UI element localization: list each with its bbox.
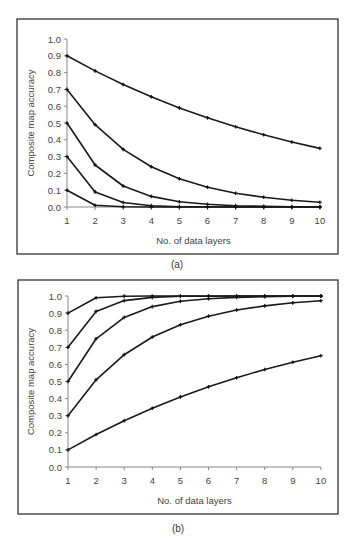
x-tick-label: 2 — [93, 475, 98, 486]
y-tick-label: 0.4 — [49, 393, 62, 404]
x-tick-label: 3 — [121, 215, 126, 226]
caption-b: (b) — [158, 523, 198, 534]
x-tick-label: 8 — [262, 475, 267, 486]
x-tick-label: 5 — [178, 475, 183, 486]
x-axis-label: No. of data layers — [156, 235, 231, 246]
y-tick-label: 0.6 — [49, 359, 62, 370]
y-tick-label: 0.9 — [49, 308, 62, 319]
y-tick-label: 0.9 — [48, 50, 61, 61]
series-line — [67, 89, 320, 202]
series-line — [68, 296, 321, 381]
y-tick-label: 0.2 — [48, 168, 61, 179]
y-tick-label: 0.7 — [49, 342, 62, 353]
x-tick-label: 3 — [122, 475, 127, 486]
figure: 0.00.10.20.30.40.50.60.70.80.91.01234567… — [0, 0, 354, 547]
y-tick-label: 0.4 — [48, 134, 61, 145]
y-tick-label: 0.3 — [49, 410, 62, 421]
x-tick-label: 9 — [290, 475, 295, 486]
x-tick-label: 1 — [65, 475, 70, 486]
series-line — [67, 123, 320, 207]
series-line — [67, 56, 320, 149]
x-tick-label: 5 — [177, 215, 182, 226]
series-line — [68, 356, 321, 450]
y-tick-label: 0.0 — [48, 202, 61, 213]
y-tick-label: 0.6 — [48, 101, 61, 112]
y-tick-label: 1.0 — [49, 291, 62, 302]
y-tick-label: 0.8 — [49, 325, 62, 336]
x-tick-label: 2 — [92, 215, 97, 226]
y-tick-label: 0.2 — [49, 427, 62, 438]
x-tick-label: 4 — [150, 475, 155, 486]
x-tick-label: 7 — [233, 215, 238, 226]
y-tick-label: 0.8 — [48, 67, 61, 78]
y-axis-label: Composite map accuracy — [25, 328, 36, 435]
x-tick-label: 10 — [316, 475, 327, 486]
y-tick-label: 0.0 — [49, 462, 62, 473]
x-tick-label: 8 — [261, 215, 266, 226]
chart-panel-a: 0.00.10.20.30.40.50.60.70.80.91.01234567… — [17, 19, 338, 254]
y-axis-label: Composite map accuracy — [25, 69, 36, 176]
y-tick-label: 0.1 — [48, 185, 61, 196]
y-tick-label: 0.7 — [48, 84, 61, 95]
x-tick-label: 9 — [289, 215, 294, 226]
x-tick-label: 7 — [234, 475, 239, 486]
x-tick-label: 4 — [149, 215, 154, 226]
x-tick-label: 1 — [64, 215, 69, 226]
y-tick-label: 0.3 — [48, 151, 61, 162]
x-axis-label: No. of data layers — [157, 495, 232, 506]
x-tick-label: 6 — [205, 215, 210, 226]
caption-a: (a) — [157, 259, 197, 270]
x-tick-label: 6 — [206, 475, 211, 486]
y-tick-label: 0.1 — [49, 444, 62, 455]
y-tick-label: 1.0 — [48, 34, 61, 45]
chart-panel-b: 0.00.10.20.30.40.50.60.70.80.91.01234567… — [18, 280, 338, 514]
series-line — [68, 301, 321, 416]
x-tick-label: 10 — [315, 215, 326, 226]
y-tick-label: 0.5 — [48, 118, 61, 129]
y-tick-label: 0.5 — [49, 376, 62, 387]
